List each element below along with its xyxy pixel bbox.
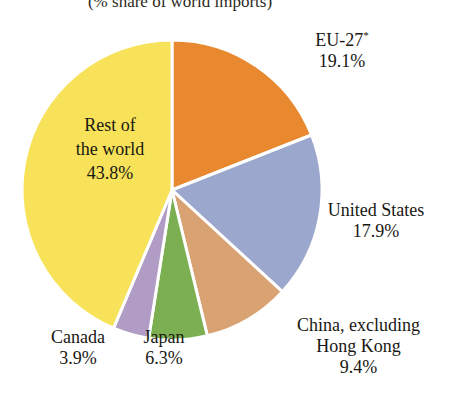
slice-label-canada-value: 3.9% [28,348,128,369]
slice-label-united-states-value: 17.9% [296,221,456,242]
slice-label-china-name-line2: Hong Kong [256,336,461,357]
slice-label-canada-name: Canada [28,327,128,348]
slice-label-china-value: 9.4% [256,357,461,378]
slice-label-eu-value: 19.1% [282,51,402,72]
slice-label-japan: Japan 6.3% [118,327,210,369]
slice-label-rest-of-world-name-line1: Rest of [30,113,190,137]
slice-label-china-name-line1: China, excluding [256,315,461,336]
slice-label-japan-name: Japan [118,327,210,348]
slice-label-rest-of-world-value: 43.8% [30,161,190,185]
slice-label-rest-of-world-name-line2: the world [30,137,190,161]
pie-chart-figure: (% share of world imports) EU-27* 19.1% … [0,0,470,415]
eu-footnote-marker: * [363,29,369,41]
slice-label-united-states-name: United States [296,200,456,221]
slice-label-rest-of-world: Rest of the world 43.8% [30,113,190,185]
slice-label-canada: Canada 3.9% [28,327,128,369]
slice-label-china: China, excluding Hong Kong 9.4% [256,315,461,378]
slice-label-japan-value: 6.3% [118,348,210,369]
slice-label-united-states: United States 17.9% [296,200,456,242]
slice-label-eu-name: EU-27* [282,30,402,51]
slice-label-eu: EU-27* 19.1% [282,30,402,72]
